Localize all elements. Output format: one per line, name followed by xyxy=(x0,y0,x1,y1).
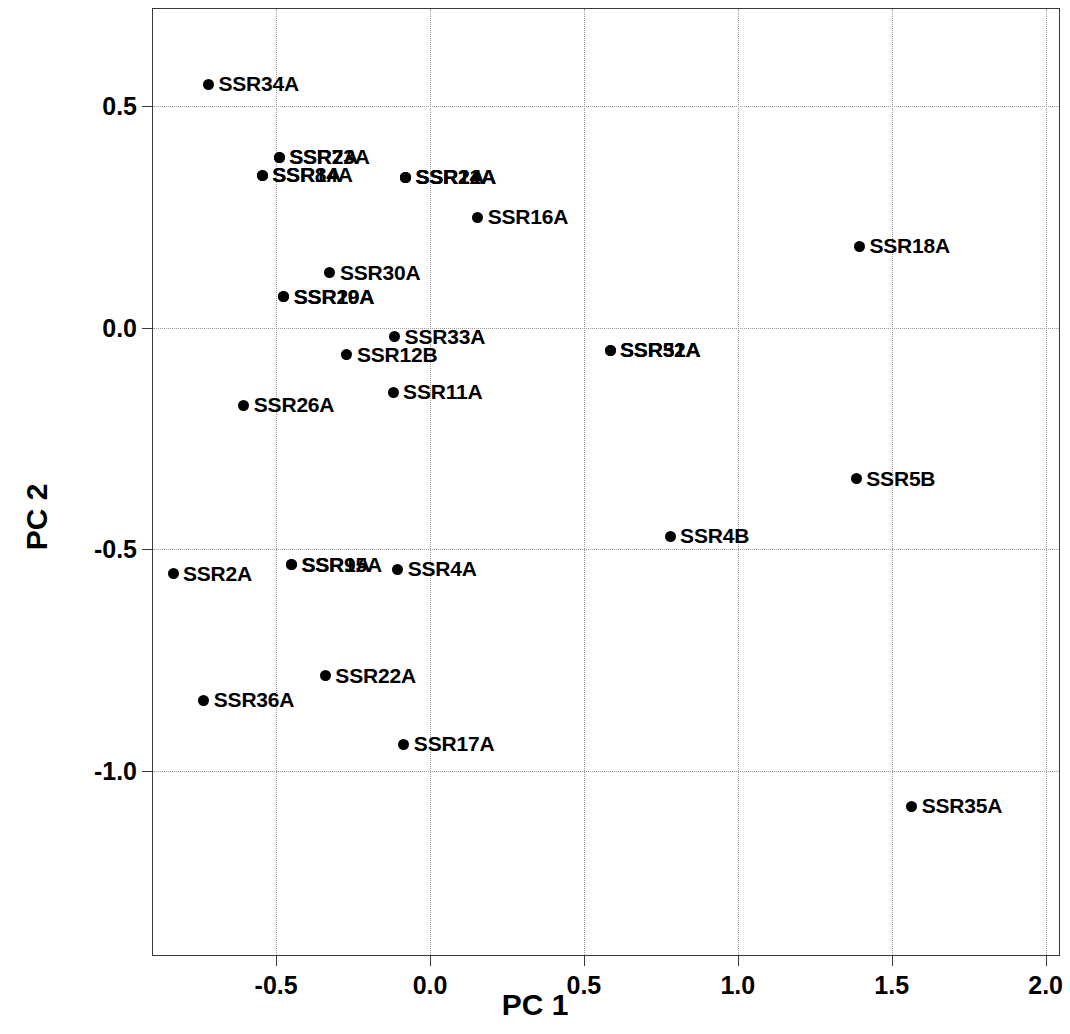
y-tick-mark xyxy=(142,106,153,107)
y-tick-label: 0.5 xyxy=(102,92,137,121)
data-point xyxy=(389,331,400,342)
data-point-label: SSR17A xyxy=(414,732,495,756)
data-point-label: SSR2A xyxy=(183,562,252,586)
y-axis-title: PC 2 xyxy=(20,484,54,551)
y-tick-mark xyxy=(142,771,153,772)
data-point-label: SSR4A xyxy=(408,557,477,581)
gridline-vertical xyxy=(584,9,585,955)
data-point-label: SSR18A xyxy=(869,234,950,258)
data-point-label: SSR36A xyxy=(214,688,295,712)
y-tick-label: -1.0 xyxy=(94,756,137,785)
data-point xyxy=(168,568,179,579)
data-point-label: SSR16A xyxy=(488,205,569,229)
y-tick-mark xyxy=(142,328,153,329)
x-tick-mark xyxy=(430,955,431,966)
x-tick-mark xyxy=(738,955,739,966)
data-point-label: SSR4B xyxy=(680,524,749,548)
data-point-label: SSR35A xyxy=(922,794,1003,818)
data-point-label: SSR15A xyxy=(302,553,383,577)
data-point xyxy=(286,559,297,570)
data-point xyxy=(851,473,862,484)
data-point xyxy=(605,345,616,356)
data-point-label: SSR32A xyxy=(620,338,701,362)
data-point xyxy=(392,564,403,575)
gridline-horizontal xyxy=(153,771,1059,772)
x-tick-mark xyxy=(276,955,277,966)
gridline-vertical xyxy=(276,9,277,955)
x-axis-title: PC 1 xyxy=(0,988,1070,1022)
data-point xyxy=(320,670,331,681)
data-point xyxy=(278,291,289,302)
data-point xyxy=(257,170,268,181)
y-tick-label: 0.0 xyxy=(102,313,137,342)
gridline-vertical xyxy=(738,9,739,955)
data-point xyxy=(472,212,483,223)
data-point-label: SSR22A xyxy=(335,664,416,688)
gridline-vertical xyxy=(430,9,431,955)
data-point xyxy=(398,739,409,750)
y-tick-label: -0.5 xyxy=(94,535,137,564)
data-point-label: SSR14A xyxy=(272,163,353,187)
data-point-label: SSR12B xyxy=(357,343,438,367)
data-point xyxy=(854,241,865,252)
plot-area: -0.50.00.51.01.52.0 0.50.0-0.5-1.0 SSR34… xyxy=(152,8,1060,956)
y-tick-mark xyxy=(142,549,153,550)
data-point xyxy=(324,267,335,278)
gridline-vertical xyxy=(1046,9,1047,955)
pca-scatter-figure: -0.50.00.51.01.52.0 0.50.0-0.5-1.0 SSR34… xyxy=(0,0,1070,1034)
x-tick-mark xyxy=(892,955,893,966)
data-point xyxy=(238,400,249,411)
data-point-label: SSR30A xyxy=(340,261,421,285)
gridline-horizontal xyxy=(153,549,1059,550)
data-point-label: SSR21A xyxy=(415,165,496,189)
data-point xyxy=(665,531,676,542)
gridline-horizontal xyxy=(153,328,1059,329)
data-point xyxy=(198,695,209,706)
data-point xyxy=(341,349,352,360)
x-tick-mark xyxy=(1046,955,1047,966)
data-point xyxy=(388,387,399,398)
gridline-horizontal xyxy=(153,106,1059,107)
data-point-label: SSR34A xyxy=(218,72,299,96)
x-tick-mark xyxy=(584,955,585,966)
data-point xyxy=(203,79,214,90)
data-point-label: SSR26A xyxy=(254,393,335,417)
data-point-label: SSR5B xyxy=(866,467,935,491)
data-point-label: SSR11A xyxy=(403,380,482,404)
data-point-label: SSR19A xyxy=(294,285,375,309)
data-point xyxy=(400,172,411,183)
data-point xyxy=(274,152,285,163)
data-point xyxy=(906,801,917,812)
